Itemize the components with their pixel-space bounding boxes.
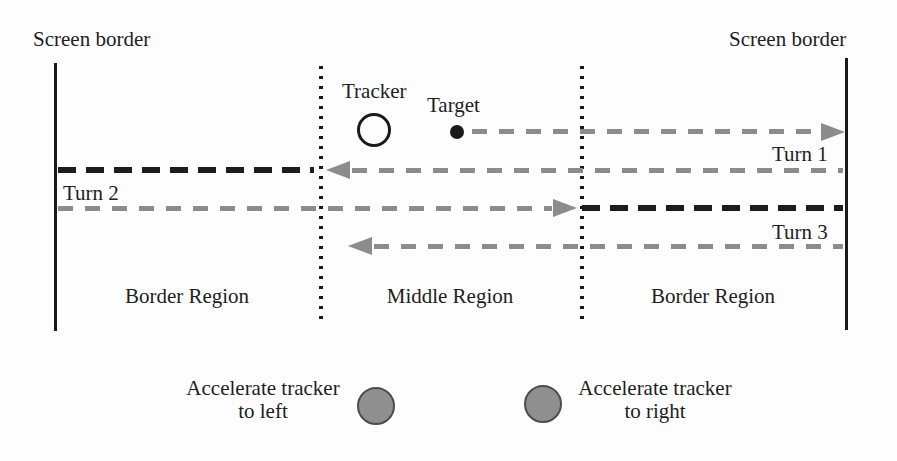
legend-accelerate-right-label: Accelerate tracker to right bbox=[560, 377, 750, 423]
legend-accelerate-left-label: Accelerate tracker to left bbox=[168, 377, 358, 423]
tracker-circle bbox=[357, 113, 391, 147]
turn2-label: Turn 2 bbox=[63, 182, 119, 205]
legend-accelerate-left-line2: to left bbox=[168, 400, 358, 423]
legend-accelerate-right-line1: Accelerate tracker bbox=[560, 377, 750, 400]
accelerate-left-circle-icon bbox=[357, 387, 395, 425]
legend-accelerate-right-line2: to right bbox=[560, 400, 750, 423]
legend-accelerate-left-line1: Accelerate tracker bbox=[168, 377, 358, 400]
turn1-dashed-path bbox=[472, 129, 820, 134]
turn3-right-arrowhead-icon bbox=[553, 199, 577, 217]
turn4-left-arrowhead-icon bbox=[348, 237, 372, 255]
turn2-border-dashed-segment bbox=[58, 167, 314, 173]
turn2-left-arrowhead-icon bbox=[326, 161, 350, 179]
target-dot bbox=[450, 125, 464, 139]
screen-border-label-right: Screen border bbox=[729, 28, 846, 51]
turn3-label: Turn 3 bbox=[772, 221, 828, 244]
accelerate-right-circle-icon bbox=[524, 385, 562, 423]
middle-region-label: Middle Region bbox=[320, 285, 580, 308]
turn1-label: Turn 1 bbox=[772, 143, 828, 166]
turn1-right-arrowhead-icon bbox=[821, 123, 845, 141]
turn3-border-dashed-segment bbox=[582, 205, 843, 211]
target-label: Target bbox=[427, 94, 480, 117]
turn4-dashed-path bbox=[374, 244, 843, 249]
tracking-task-diagram: Screen border Screen border Tracker Targ… bbox=[0, 0, 897, 461]
turn3-dashed-path bbox=[58, 206, 552, 211]
screen-border-label-left: Screen border bbox=[33, 28, 150, 51]
tracker-label: Tracker bbox=[342, 80, 407, 103]
border-region-right-label: Border Region bbox=[581, 285, 845, 308]
border-region-left-label: Border Region bbox=[54, 285, 320, 308]
screen-border-line-right bbox=[845, 58, 848, 330]
turn2-dashed-path bbox=[352, 168, 843, 173]
